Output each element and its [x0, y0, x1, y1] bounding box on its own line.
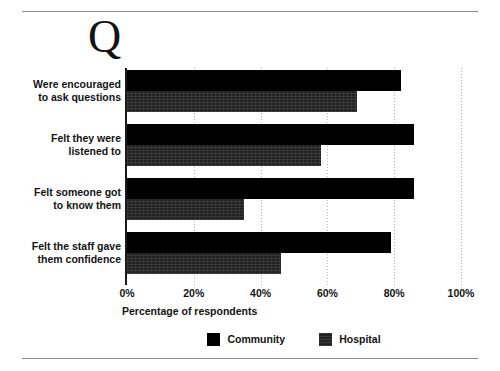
category-axis-labels: Were encouraged to ask questions Felt th… [18, 68, 121, 285]
bar-chart-plot-area [127, 68, 461, 285]
figure-marker-q: Q [88, 14, 121, 60]
category-label-3-line-1: them confidence [18, 253, 121, 266]
category-label-2-line-0: Felt someone got [18, 186, 121, 199]
category-label-1-line-1: listened to [18, 145, 121, 158]
bar-groups [127, 68, 461, 285]
x-tick-100%: 100% [431, 287, 491, 299]
x-axis-tick-labels: 0%20%40%60%80%100% [0, 287, 500, 303]
category-label-3-line-0: Felt the staff gave [18, 240, 121, 253]
category-label-0: Were encouraged to ask questions [18, 78, 121, 104]
legend-swatch-hospital-icon [319, 333, 332, 346]
bar-community-3 [127, 232, 391, 253]
bar-group-2 [127, 178, 461, 221]
legend-item-community: Community [207, 333, 285, 346]
legend-label-community: Community [227, 333, 285, 345]
category-label-2: Felt someone got to know them [18, 186, 121, 212]
x-tick-80%: 80% [364, 287, 424, 299]
bar-group-0 [127, 70, 461, 113]
bar-hospital-2 [127, 199, 244, 220]
bar-group-1 [127, 124, 461, 167]
category-label-0-line-1: to ask questions [18, 91, 121, 104]
x-tick-40%: 40% [231, 287, 291, 299]
category-label-3: Felt the staff gave them confidence [18, 240, 121, 266]
gridline-100% [461, 68, 462, 285]
figure-bottom-rule [22, 358, 478, 359]
bar-community-2 [127, 178, 414, 199]
x-tick-20%: 20% [164, 287, 224, 299]
legend-label-hospital: Hospital [339, 333, 380, 345]
x-axis-title: Percentage of respondents [122, 305, 257, 317]
bar-group-3 [127, 232, 461, 275]
x-tick-0%: 0% [97, 287, 157, 299]
bar-hospital-1 [127, 145, 321, 166]
category-label-1-line-0: Felt they were [18, 132, 121, 145]
category-label-0-line-0: Were encouraged [18, 78, 121, 91]
bar-community-0 [127, 70, 401, 91]
category-label-2-line-1: to know them [18, 199, 121, 212]
bar-hospital-0 [127, 91, 357, 112]
legend-swatch-community-icon [207, 333, 220, 346]
chart-legend: Community Hospital [127, 330, 461, 348]
category-label-1: Felt they were listened to [18, 132, 121, 158]
legend-item-hospital: Hospital [319, 333, 380, 346]
bar-community-1 [127, 124, 414, 145]
bar-hospital-3 [127, 253, 281, 274]
x-tick-60%: 60% [297, 287, 357, 299]
